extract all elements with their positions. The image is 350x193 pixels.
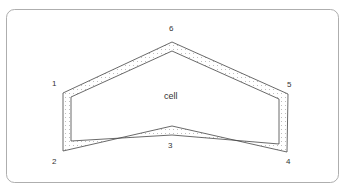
cell-label: cell (164, 92, 178, 101)
vertex-label-1: 1 (52, 80, 56, 88)
vertex-label-6: 6 (169, 25, 173, 33)
vertex-label-4: 4 (286, 158, 290, 166)
vertex-label-3: 3 (168, 142, 172, 150)
diagram-canvas: cell 1 2 3 4 5 6 (0, 0, 350, 193)
vertex-label-2: 2 (52, 158, 56, 166)
vertex-label-5: 5 (287, 81, 291, 89)
